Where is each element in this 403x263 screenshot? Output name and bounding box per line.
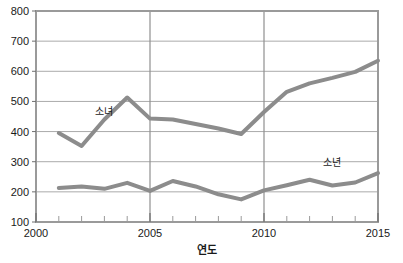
y-tick-label: 800 <box>11 5 29 17</box>
y-tick-label: 600 <box>11 65 29 77</box>
x-tick-label: 2000 <box>24 227 48 239</box>
x-tick-label: 2015 <box>366 227 390 239</box>
y-tick-label: 200 <box>11 186 29 198</box>
x-axis-tick-labels: 2000200520102015 <box>24 227 390 239</box>
y-tick-label: 700 <box>11 35 29 47</box>
y-tick-label: 400 <box>11 126 29 138</box>
x-tick-label: 2005 <box>138 227 162 239</box>
series-label-1: 소년 <box>323 157 341 168</box>
chart-canvas: 100200300400500600700800 200020052010201… <box>0 0 403 263</box>
y-tick-label: 300 <box>11 156 29 168</box>
line-chart-figure: 100200300400500600700800 200020052010201… <box>0 0 403 263</box>
series-label-0: 소녀 <box>95 106 113 117</box>
y-axis-tick-labels: 100200300400500600700800 <box>11 5 29 228</box>
x-tick-label: 2010 <box>252 227 276 239</box>
y-tick-label: 500 <box>11 95 29 107</box>
x-axis-title: 연도 <box>197 243 217 256</box>
